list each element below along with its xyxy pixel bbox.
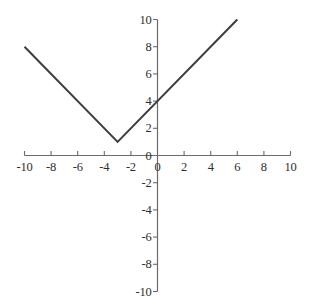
y-tick-label: 8: [145, 40, 151, 53]
y-tick-label: -10: [135, 285, 151, 298]
cartesian-plot: -10-8-6-4-20246810 1086420-2-4-6-8-10: [0, 0, 311, 306]
axis-lines: [25, 20, 291, 292]
y-tick-label: 4: [145, 95, 151, 108]
y-tick-label: 2: [145, 122, 151, 135]
y-tick-label: 6: [145, 68, 151, 81]
x-tick-label: -2: [126, 161, 136, 174]
x-tick-label: 2: [181, 161, 187, 174]
plot-svg: [0, 0, 311, 306]
y-origin-label: 0: [145, 149, 151, 162]
x-tick-label: 8: [261, 161, 267, 174]
x-tick-label: -8: [46, 161, 56, 174]
x-tick-label: -10: [16, 161, 32, 174]
series-line: [25, 20, 238, 142]
x-tick-label: 6: [234, 161, 240, 174]
y-tick-label: -6: [141, 231, 151, 244]
y-tick-label: -4: [141, 204, 151, 217]
x-tick-label: 10: [284, 161, 296, 174]
x-tick-label: 0: [154, 161, 160, 174]
x-tick-label: -6: [73, 161, 83, 174]
y-tick-label: -2: [141, 176, 151, 189]
y-tick-label: -8: [141, 258, 151, 271]
y-tick-label: 10: [139, 13, 151, 26]
data-series: [25, 20, 238, 142]
x-tick-label: 4: [208, 161, 214, 174]
x-tick-label: -4: [99, 161, 109, 174]
